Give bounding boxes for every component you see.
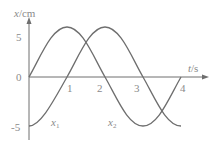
x-tick-4: 4 [180,82,186,94]
y-tick-5: 5 [16,31,22,43]
x-axis-arrow-icon [202,75,209,80]
x-tick-3: 3 [134,82,140,94]
x-tick-1: 1 [67,82,73,94]
label-x1: x1 [50,116,60,130]
y-tick-0: 0 [16,71,22,83]
label-x2: x2 [107,116,117,130]
x-axis-label: t/s [188,62,198,74]
displacement-time-chart: x/cm t/s 5 0 -5 1 2 3 4 x1 x2 [0,0,213,151]
x-tick-2: 2 [97,82,103,94]
y-tick-minus-5: -5 [11,121,21,133]
y-axis-label: x/cm [13,7,36,19]
